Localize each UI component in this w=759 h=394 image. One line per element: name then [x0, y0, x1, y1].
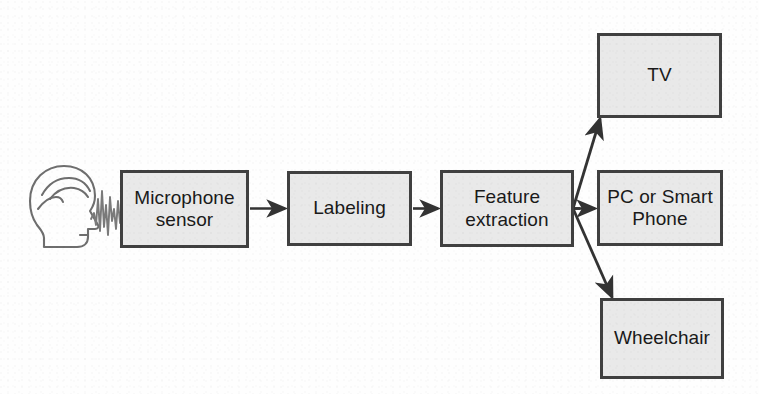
- diagram-canvas: Microphone sensor Labeling Feature extra…: [0, 0, 759, 394]
- node-wheelchair[interactable]: Wheelchair: [600, 298, 724, 379]
- edge-feature-extraction-to-tv: [573, 119, 600, 209]
- node-microphone-sensor[interactable]: Microphone sensor: [120, 170, 249, 248]
- node-pc-or-smart-phone[interactable]: PC or Smart Phone: [597, 170, 723, 246]
- node-tv-label: TV: [643, 64, 675, 86]
- node-labeling[interactable]: Labeling: [287, 171, 412, 246]
- node-feature-extraction-label: Feature extraction: [461, 186, 552, 231]
- node-wheelchair-label: Wheelchair: [610, 327, 714, 349]
- speaker-head-icon: [22, 155, 127, 265]
- node-labeling-label: Labeling: [309, 197, 390, 219]
- node-microphone-sensor-label: Microphone sensor: [130, 187, 238, 232]
- node-feature-extraction[interactable]: Feature extraction: [440, 170, 574, 247]
- node-tv[interactable]: TV: [597, 33, 722, 118]
- node-pc-or-smart-phone-label: PC or Smart Phone: [603, 186, 717, 231]
